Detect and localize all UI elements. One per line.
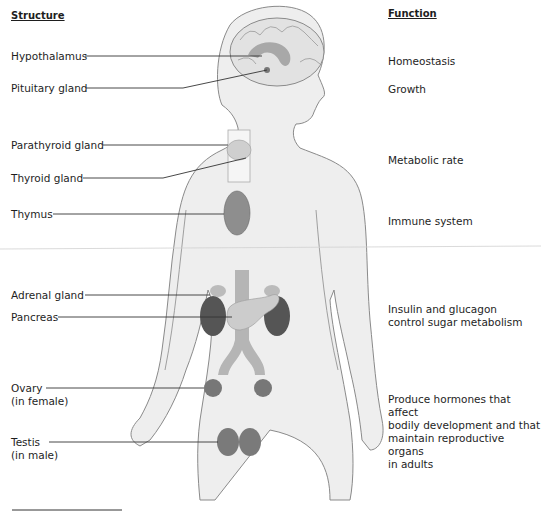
- function-insulin-glucagon: Insulin and glucagon control sugar metab…: [388, 303, 522, 329]
- function-metabolic-rate: Metabolic rate: [388, 154, 463, 167]
- thyroid-organ: [227, 140, 251, 160]
- function-line: maintain reproductive organs: [388, 432, 541, 458]
- left-kidney: [200, 296, 226, 336]
- thymus-organ: [224, 191, 250, 235]
- label-testis-note: (in male): [11, 449, 58, 462]
- right-ovary: [254, 379, 272, 397]
- function-line: bodily development and that: [388, 419, 541, 432]
- function-immune-system: Immune system: [388, 215, 473, 228]
- label-pituitary-gland: Pituitary gland: [11, 82, 87, 95]
- label-testis: Testis (in male): [11, 436, 58, 462]
- label-parathyroid-gland: Parathyroid gland: [11, 139, 104, 152]
- function-growth: Growth: [388, 83, 426, 96]
- label-thymus: Thymus: [11, 208, 53, 221]
- label-adrenal-gland: Adrenal gland: [11, 289, 84, 302]
- label-ovary-note: (in female): [11, 395, 68, 408]
- structure-header: Structure: [11, 10, 65, 21]
- label-testis-name: Testis: [11, 436, 58, 449]
- left-adrenal: [210, 285, 226, 297]
- label-pancreas: Pancreas: [11, 311, 58, 324]
- function-line: in adults: [388, 458, 541, 471]
- right-testis: [239, 428, 261, 456]
- left-testis: [217, 428, 239, 456]
- left-ovary: [204, 379, 222, 397]
- function-homeostasis: Homeostasis: [388, 55, 455, 68]
- function-line: control sugar metabolism: [388, 316, 522, 329]
- label-ovary: Ovary (in female): [11, 382, 68, 408]
- function-line: Insulin and glucagon: [388, 303, 522, 316]
- label-hypothalamus: Hypothalamus: [11, 50, 87, 63]
- function-header: Function: [388, 8, 437, 19]
- function-line: Produce hormones that affect: [388, 393, 541, 419]
- label-thyroid-gland: Thyroid gland: [11, 172, 83, 185]
- label-ovary-name: Ovary: [11, 382, 68, 395]
- function-reproductive-hormones: Produce hormones that affect bodily deve…: [388, 393, 541, 471]
